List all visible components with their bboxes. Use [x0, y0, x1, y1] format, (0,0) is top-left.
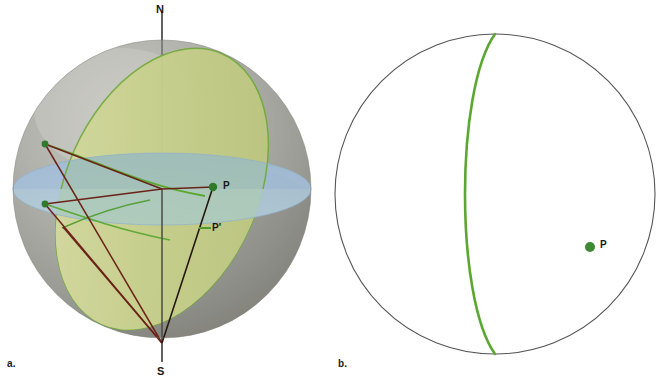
panel-b-caption: b. — [338, 358, 347, 369]
label-projected-point-p: P — [600, 239, 607, 250]
panel-a-caption: a. — [7, 358, 16, 369]
marker-great-circle-point-b — [42, 201, 49, 208]
label-point-p: P — [223, 180, 230, 191]
projected-point-p — [585, 242, 595, 252]
panel-a-sphere-construction: N S P P' a. — [0, 0, 329, 384]
marker-great-circle-point-a — [42, 141, 49, 148]
panel-b-drawing — [329, 0, 658, 384]
label-north-pole: N — [156, 3, 164, 15]
marker-point-p — [209, 183, 217, 191]
figure-stereographic-projection: N S P P' a. P b. — [0, 0, 658, 384]
panel-b-stereonet: P b. — [329, 0, 658, 384]
panel-a-drawing — [0, 0, 329, 384]
primitive-circle — [335, 34, 655, 354]
label-south-pole: S — [157, 365, 164, 377]
label-point-p-prime: P' — [212, 222, 221, 233]
